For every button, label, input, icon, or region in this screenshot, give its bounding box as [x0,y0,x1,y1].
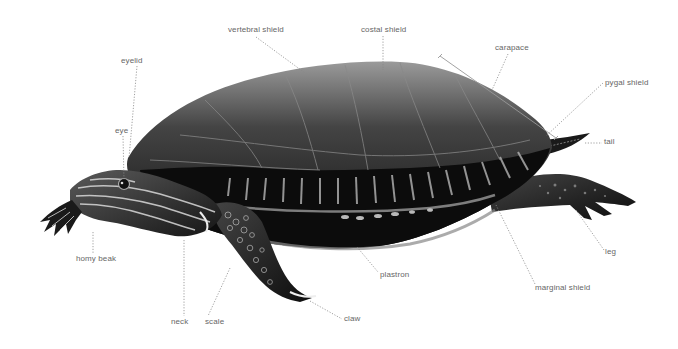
label-leg: leg [605,247,616,257]
leader-pygal-shield [546,83,603,136]
label-pygal-shield: pygal shield [605,78,648,88]
label-vertebral-shield: vertebral shield [228,25,284,35]
label-scale: scale [205,317,224,327]
leader-scale [208,268,230,316]
leader-vertebral-shield [256,37,305,73]
label-costal-shield: costal shield [361,25,406,35]
leader-carapace [492,54,508,90]
turtle-illustration [0,0,678,349]
leader-plastron [357,247,378,272]
eye-shape [119,179,130,190]
label-neck: neck [171,317,188,327]
label-tail: tail [604,137,615,147]
tail-shape [545,133,590,154]
label-plastron: plastron [380,270,409,280]
label-eye: eye [115,126,128,136]
label-horny-beak: homy beak [76,254,116,264]
label-marginal-shield: marginal shield [535,283,590,293]
label-eyelid: eyelid [121,56,143,66]
leader-marginal-shield [496,205,535,284]
leader-eyelid [129,66,137,158]
leader-claw [310,301,342,319]
label-carapace: carapace [495,43,529,53]
label-claw: claw [344,314,360,324]
turtle-anatomy-diagram: vertebral shield costal shield eyelid ey… [0,0,678,349]
